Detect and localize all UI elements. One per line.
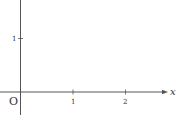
origin-label: O xyxy=(9,95,18,108)
x-axis-arrow-icon xyxy=(162,90,168,94)
x-tick-label-2: 2 xyxy=(123,98,127,106)
x-tick-label-1: 1 xyxy=(71,98,75,106)
y-tick-label-1: 1 xyxy=(12,35,16,43)
coordinate-plane: O x 1 2 1 xyxy=(0,0,176,132)
x-axis-label: x xyxy=(170,86,176,97)
